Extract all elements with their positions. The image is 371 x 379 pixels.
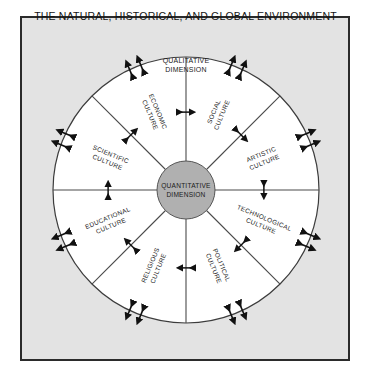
hub-label-line2: DIMENSION [166, 191, 205, 198]
wheel-diagram: QUANTITATIVE DIMENSION QUALITATIVE DIMEN… [20, 16, 351, 362]
qualitative-dimension-line2: DIMENSION [165, 66, 206, 73]
hub-circle [157, 161, 215, 219]
qualitative-dimension-line1: QUALITATIVE [163, 57, 210, 65]
diagram-root: THE NATURAL, HISTORICAL, AND GLOBAL ENVI… [0, 0, 371, 379]
hub-label-line1: QUANTITATIVE [161, 182, 211, 190]
hub-group: QUANTITATIVE DIMENSION [157, 161, 215, 219]
